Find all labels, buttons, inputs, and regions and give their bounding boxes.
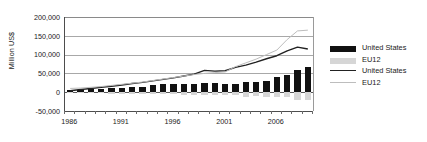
x-axis-tick-mark: [105, 111, 106, 114]
legend-item[interactable]: EU12: [330, 54, 427, 66]
chart-legend: United StatesEU12United StatesEU12: [330, 42, 427, 88]
x-axis-tick-mark: [85, 111, 86, 114]
legend-swatch-icon: [330, 65, 356, 76]
legend-item[interactable]: United States: [330, 65, 427, 77]
combo-chart-figure: Million US$ 200,000150,000100,00050,0000…: [0, 0, 427, 142]
legend-label: United States: [362, 66, 406, 75]
legend-swatch-icon: [330, 46, 356, 52]
x-axis-tick-mark: [291, 111, 292, 114]
x-axis-tick-mark: [188, 111, 189, 114]
x-axis-tick-mark: [74, 111, 75, 114]
legend-label: United States: [362, 43, 406, 52]
line-united-states: [70, 47, 308, 91]
legend-item[interactable]: EU12: [330, 77, 427, 89]
x-axis-tick-mark: [157, 111, 158, 114]
legend-label: EU12: [362, 55, 381, 64]
x-axis-tick-mark: [167, 111, 168, 114]
plot-area: [64, 17, 314, 111]
x-axis-tick-mark: [302, 111, 303, 114]
line-eu12: [70, 30, 308, 88]
x-axis-tick-mark: [260, 111, 261, 114]
y-axis-tick-label: 150,000: [14, 32, 60, 41]
x-axis-tick-mark: [116, 111, 117, 114]
x-axis-tick-mark: [64, 111, 65, 114]
x-axis-tick-mark: [178, 111, 179, 114]
x-axis-tick-label: 2006: [256, 117, 296, 126]
x-axis-tick-mark: [271, 111, 272, 114]
x-axis-tick-mark: [147, 111, 148, 114]
y-axis-tick-label: 50,000: [14, 69, 60, 78]
legend-swatch-icon: [330, 77, 356, 88]
x-axis-tick-mark: [312, 111, 313, 114]
line-layer: [65, 17, 313, 111]
x-axis-tick-mark: [281, 111, 282, 114]
y-axis-tick-label: 200,000: [14, 13, 60, 22]
x-axis-tick-label: 2001: [204, 117, 244, 126]
x-axis-tick-mark: [95, 111, 96, 114]
x-axis-tick-label: 1991: [101, 117, 141, 126]
legend-swatch-icon: [330, 58, 356, 64]
y-axis-tick-label: 100,000: [14, 50, 60, 59]
x-axis-tick-mark: [126, 111, 127, 114]
x-axis-tick-mark: [219, 111, 220, 114]
x-axis-tick-label: 1986: [49, 117, 89, 126]
y-axis-tick-label: 0: [14, 88, 60, 97]
x-axis-tick-mark: [198, 111, 199, 114]
legend-label: EU12: [362, 78, 381, 87]
x-axis-tick-mark: [136, 111, 137, 114]
x-axis-tick-mark: [250, 111, 251, 114]
x-axis-tick-mark: [209, 111, 210, 114]
legend-item[interactable]: United States: [330, 42, 427, 54]
y-axis-tick-label: -50,000: [14, 107, 60, 116]
x-axis-tick-label: 1996: [153, 117, 193, 126]
x-axis-tick-mark: [229, 111, 230, 114]
x-axis-tick-mark: [240, 111, 241, 114]
